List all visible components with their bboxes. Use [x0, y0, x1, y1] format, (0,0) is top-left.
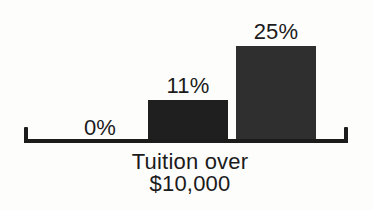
- bar-value-label-25%: 25%: [231, 21, 321, 43]
- bar-11%: [148, 100, 228, 142]
- x-axis-left-end-tick: [24, 127, 28, 143]
- bar-value-label-11%: 11%: [143, 75, 233, 97]
- x-axis-line: [24, 139, 348, 143]
- bar-25%: [236, 46, 316, 142]
- x-axis-label: Tuition over $10,000: [100, 151, 280, 195]
- x-axis-label-line2: $10,000: [100, 173, 280, 195]
- x-axis-right-end-tick: [344, 127, 348, 143]
- bar-chart-figure: 0%11%25% Tuition over $10,000: [0, 0, 373, 210]
- bar-value-label-0%: 0%: [55, 117, 145, 139]
- x-axis-label-line1: Tuition over: [100, 151, 280, 173]
